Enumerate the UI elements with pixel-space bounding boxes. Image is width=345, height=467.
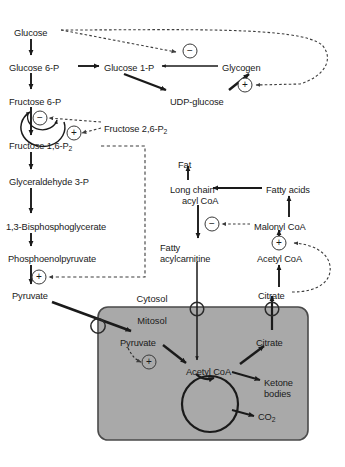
pyruvate-transporter-icon [91,319,105,333]
carnitine-shuttle-icon [190,302,204,316]
metabolic-pathway-diagram: Glucose Glucose 6-P Glucose 1-P Glycogen… [0,0,345,467]
transporter-layer [0,0,345,467]
citrate-transporter-icon [265,302,279,316]
